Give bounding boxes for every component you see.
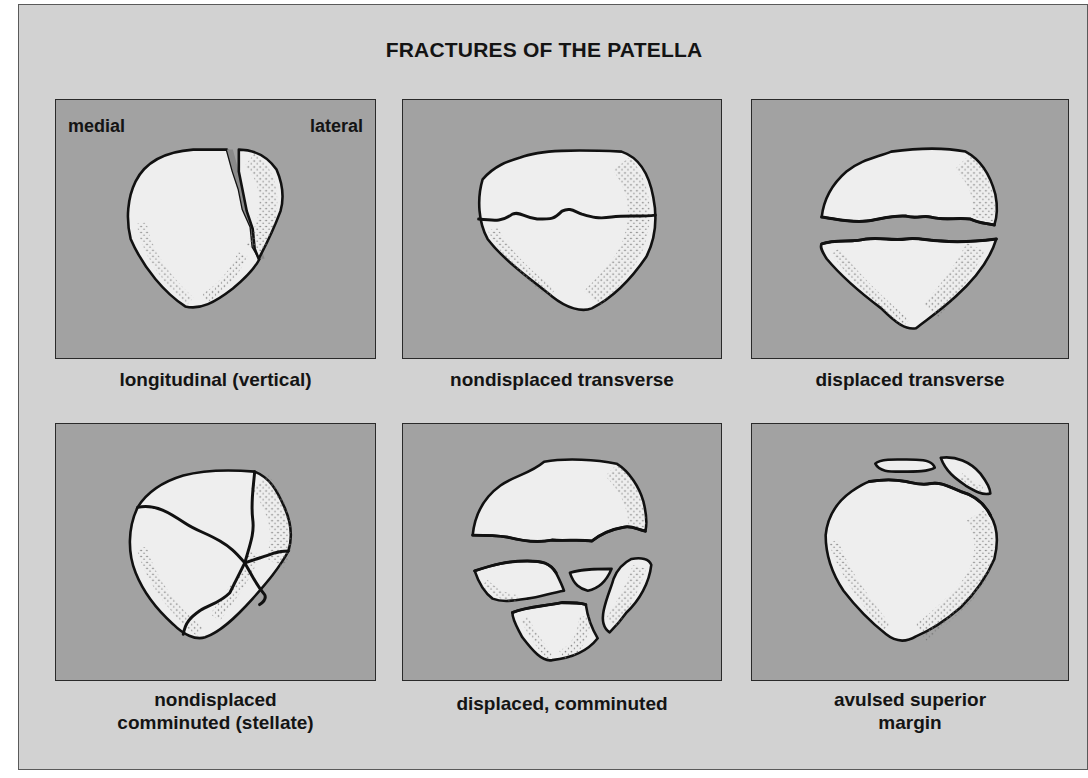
caption-line: displaced transverse bbox=[751, 368, 1069, 391]
caption-longitudinal: longitudinal (vertical) bbox=[55, 368, 376, 391]
figure-title: FRACTURES OF THE PATELLA bbox=[0, 38, 1088, 62]
patella-avulsed-margin-illustration bbox=[752, 424, 1068, 680]
panel-displaced-comminuted bbox=[402, 423, 722, 681]
caption-line: nondisplaced bbox=[55, 688, 376, 711]
panel-nondisplaced-comminuted bbox=[55, 423, 376, 681]
panel-longitudinal: medial lateral bbox=[55, 99, 376, 359]
caption-displaced-comminuted: displaced, comminuted bbox=[402, 692, 722, 715]
caption-avulsed-superior-margin: avulsed superior margin bbox=[751, 688, 1069, 734]
caption-line: margin bbox=[751, 711, 1069, 734]
patella-displaced-transverse-illustration bbox=[752, 100, 1068, 358]
caption-line: avulsed superior bbox=[751, 688, 1069, 711]
patella-nondisplaced-transverse-illustration bbox=[403, 100, 721, 358]
caption-nondisplaced-comminuted: nondisplaced comminuted (stellate) bbox=[55, 688, 376, 734]
panel-displaced-transverse bbox=[751, 99, 1069, 359]
caption-nondisplaced-transverse: nondisplaced transverse bbox=[402, 368, 722, 391]
patella-stellate-illustration bbox=[56, 424, 375, 680]
caption-line: nondisplaced transverse bbox=[402, 368, 722, 391]
caption-line: comminuted (stellate) bbox=[55, 711, 376, 734]
patella-displaced-comminuted-illustration bbox=[403, 424, 721, 680]
patella-longitudinal-illustration bbox=[56, 100, 375, 358]
caption-line: displaced, comminuted bbox=[402, 692, 722, 715]
caption-displaced-transverse: displaced transverse bbox=[751, 368, 1069, 391]
panel-nondisplaced-transverse bbox=[402, 99, 722, 359]
caption-line: longitudinal (vertical) bbox=[55, 368, 376, 391]
panel-avulsed-superior-margin bbox=[751, 423, 1069, 681]
